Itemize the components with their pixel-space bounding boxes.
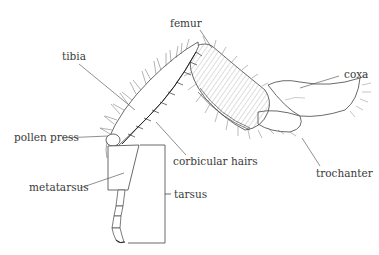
bee-leg-diagram: tibia femur coxa pollen press metatarsus… [0,0,379,255]
coxa-segment [268,74,371,117]
leg-illustration [0,0,379,255]
label-trochanter: trochanter [316,168,373,179]
label-femur: femur [170,18,202,29]
label-pollen-press: pollen press [14,132,79,143]
label-metatarsus: metatarsus [29,182,89,193]
label-coxa: coxa [344,69,368,80]
label-tarsus: tarsus [174,189,207,200]
label-tibia: tibia [62,51,86,62]
tarsal-segments [112,190,125,243]
metatarsus-segment [108,145,139,190]
label-corbicular-hairs: corbicular hairs [173,156,258,167]
tibia-segment [100,39,202,146]
